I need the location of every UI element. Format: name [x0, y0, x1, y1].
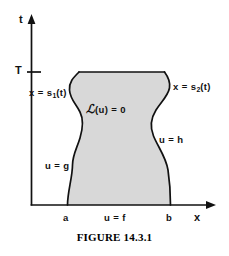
right-boundary-label: x = s2(t) [173, 82, 211, 94]
figure-container: t x T x = s1(t) x = s2(t) ℒ(u) = 0 u = h… [0, 0, 229, 256]
t-axis-label: t [19, 14, 23, 25]
left-boundary-label: x = s1(t) [29, 88, 67, 100]
left-boundary-label-tail: (t) [56, 87, 67, 98]
interior-equation-text: (u) = 0 [95, 104, 126, 115]
left-condition-label: u = g [45, 161, 69, 171]
x-axis-arrowhead [206, 201, 216, 209]
left-boundary-label-main: x = s [29, 87, 52, 98]
script-l-operator-icon: ℒ [86, 102, 95, 116]
right-boundary-label-main: x = s [173, 81, 196, 92]
x-tick-label-a: a [63, 213, 69, 223]
x-axis-label: x [194, 212, 201, 223]
figure-caption: FIGURE 14.3.1 [0, 231, 229, 243]
right-condition-label: u = h [159, 135, 183, 145]
right-boundary-label-tail: (t) [200, 81, 211, 92]
t-tick-label-T: T [15, 65, 22, 76]
bottom-condition-label: u = f [104, 213, 126, 223]
interior-equation-label: ℒ(u) = 0 [86, 103, 126, 115]
x-tick-label-b: b [166, 213, 172, 223]
t-axis-arrowhead [28, 14, 36, 24]
